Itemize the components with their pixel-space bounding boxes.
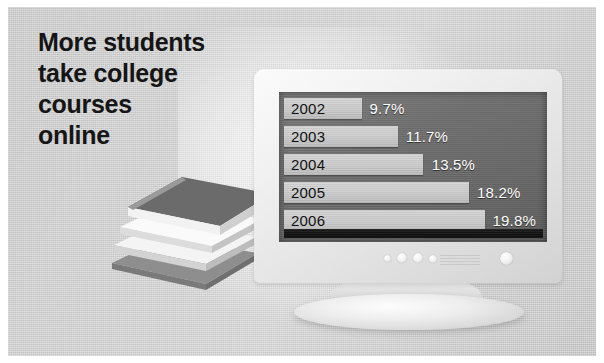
chart-row: 2004 13.5% xyxy=(284,152,543,178)
minus-button[interactable] xyxy=(397,253,407,263)
monitor-vent-grille xyxy=(440,255,480,265)
bar-value-2006: 19.8% xyxy=(492,211,536,230)
chart-row: 2002 9.7% xyxy=(284,96,543,122)
bar-value-2002: 9.7% xyxy=(369,99,404,118)
chart-row: 2003 11.7% xyxy=(284,124,543,150)
menu-button[interactable] xyxy=(384,255,391,262)
crt-monitor: 2002 9.7% 2003 11.7% 2004 13.5% xyxy=(254,69,562,283)
bar-label-2006: 2006 xyxy=(291,211,325,230)
poster-canvas: More students take college courses onlin… xyxy=(0,0,604,363)
bar-label-2004: 2004 xyxy=(291,155,325,174)
photo-plate: More students take college courses onlin… xyxy=(8,7,596,356)
select-button[interactable] xyxy=(429,255,437,263)
bar-chart: 2002 9.7% 2003 11.7% 2004 13.5% xyxy=(284,96,543,238)
headline-line-1: More students xyxy=(38,27,253,58)
monitor-screen: 2002 9.7% 2003 11.7% 2004 13.5% xyxy=(279,92,547,242)
page-title: More students take college courses onlin… xyxy=(38,27,253,151)
power-button[interactable] xyxy=(500,252,513,265)
headline-line-2: take college xyxy=(38,58,253,89)
chart-row: 2005 18.2% xyxy=(284,180,543,206)
headline-line-4: online xyxy=(38,120,253,151)
monitor-base xyxy=(294,294,524,330)
bar-label-2003: 2003 xyxy=(291,127,325,146)
headline-line-3: courses xyxy=(38,89,253,120)
bar-value-2005: 18.2% xyxy=(477,183,521,202)
bar-label-2002: 2002 xyxy=(291,99,325,118)
bar-label-2005: 2005 xyxy=(291,183,325,202)
bar-value-2004: 13.5% xyxy=(432,155,476,174)
bar-value-2003: 11.7% xyxy=(406,127,448,146)
plus-button[interactable] xyxy=(413,253,423,263)
chart-baseline xyxy=(284,229,543,238)
